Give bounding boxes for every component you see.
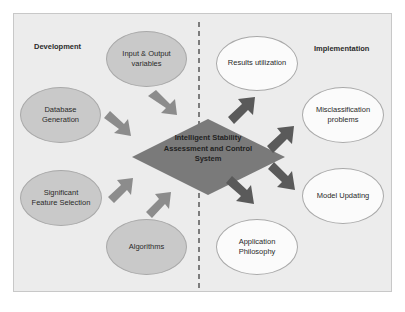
- section-label-implementation: Implementation: [314, 44, 369, 53]
- arrow-icon: [267, 126, 294, 153]
- arrow-icon: [268, 162, 295, 190]
- arrow-icon: [228, 97, 255, 124]
- section-label-development: Development: [34, 42, 81, 51]
- node-model-updating: Model Updating: [302, 168, 384, 224]
- node-results-utilization: Results utilization: [216, 36, 298, 91]
- node-input-output-variables: Input & Output variables: [106, 31, 187, 87]
- node-significant-feature-selection: Significant Feature Selection: [20, 170, 102, 226]
- node-application-philosophy: Application Philosophy: [216, 219, 298, 275]
- arrow-icon: [104, 111, 131, 136]
- arrow-icon: [108, 178, 133, 203]
- center-label: Intelligent Stability Assessment and Con…: [148, 133, 268, 165]
- node-algorithms: Algorithms: [106, 219, 187, 275]
- node-misclassification-problems: Misclassification problems: [302, 87, 384, 143]
- node-database-generation: Database Generation: [20, 87, 101, 143]
- arrow-icon: [146, 192, 171, 218]
- arrow-icon: [226, 176, 254, 204]
- arrow-icon: [148, 90, 177, 115]
